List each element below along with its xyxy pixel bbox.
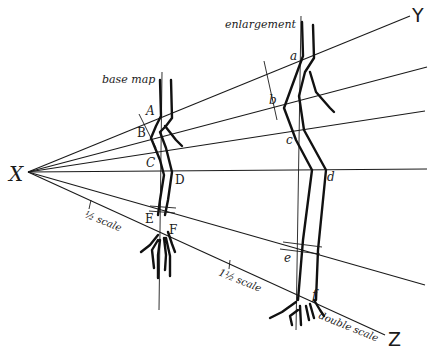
enlargement-point-f: f	[311, 287, 319, 302]
base-point-b: B	[137, 126, 146, 140]
base-map-branch	[165, 126, 182, 146]
enlargement-point-e: e	[284, 251, 291, 265]
ray-label-z: Z	[388, 328, 401, 350]
base-map-title: base map	[102, 73, 155, 86]
ray-d	[28, 169, 427, 172]
base-point-f: F	[169, 223, 177, 237]
enlargement-point-d: d	[327, 170, 335, 184]
enlargement-by-rays-diagram: X Y Z base map enlargement A B C D E F a…	[0, 0, 432, 356]
enlargement-point-c: c	[286, 133, 293, 147]
ray-xy	[28, 16, 410, 172]
double-scale-label: double scale	[317, 310, 380, 344]
enlargement-roots	[270, 300, 324, 325]
base-point-c: C	[146, 156, 155, 170]
enlargement-point-b: b	[269, 93, 277, 107]
ray-xz	[28, 172, 385, 335]
enlargement-road-right	[299, 25, 326, 300]
base-point-d: D	[175, 173, 185, 187]
one-and-half-scale-label: 1½ scale	[217, 267, 263, 294]
enlargement-point-a: a	[290, 49, 297, 63]
base-map-roots	[141, 232, 175, 278]
half-scale-tick	[89, 200, 91, 209]
origin-label-x: X	[7, 162, 24, 186]
projection-rays	[28, 16, 427, 335]
base-point-a: A	[145, 104, 155, 118]
enlargement-cross-line	[264, 61, 277, 120]
ray-label-y: Y	[411, 4, 424, 26]
base-point-e: E	[145, 212, 154, 226]
enlargement-title: enlargement	[225, 18, 297, 31]
enlargement-drawing	[264, 16, 334, 330]
one-and-half-scale-tick	[229, 260, 230, 269]
